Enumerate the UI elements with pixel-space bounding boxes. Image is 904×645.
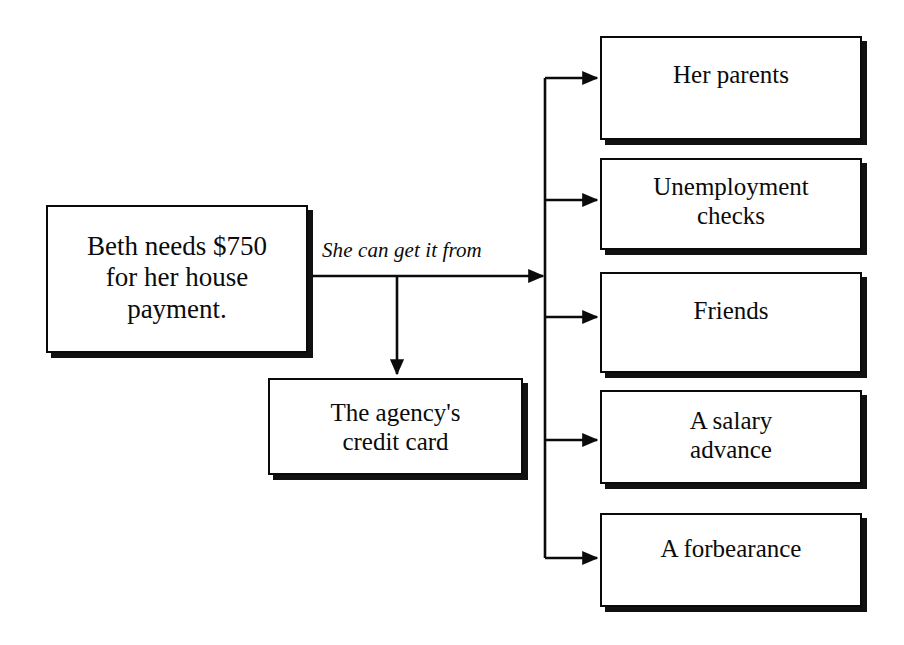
node-option-friends-label: Friends bbox=[694, 296, 769, 325]
node-option-forbearance-label: A forbearance bbox=[661, 534, 802, 563]
edge-label-she-can-get-it-from: She can get it from bbox=[322, 238, 482, 263]
diagram-canvas: Beth needs $750 for her house payment. S… bbox=[0, 0, 904, 645]
node-option-forbearance[interactable]: A forbearance bbox=[600, 513, 862, 607]
node-option-unemployment-checks-label: Unemployment checks bbox=[653, 172, 809, 230]
node-option-her-parents-label: Her parents bbox=[673, 60, 789, 89]
node-option-friends[interactable]: Friends bbox=[600, 272, 862, 373]
node-option-salary-advance[interactable]: A salary advance bbox=[600, 390, 862, 484]
node-option-unemployment-checks[interactable]: Unemployment checks bbox=[600, 158, 862, 250]
node-option-salary-advance-label: A salary advance bbox=[690, 406, 773, 464]
node-credit-card[interactable]: The agency's credit card bbox=[268, 378, 523, 475]
node-option-her-parents[interactable]: Her parents bbox=[600, 36, 862, 140]
node-source-statement[interactable]: Beth needs $750 for her house payment. bbox=[46, 205, 308, 353]
node-credit-card-label: The agency's credit card bbox=[330, 398, 460, 456]
node-source-statement-label: Beth needs $750 for her house payment. bbox=[87, 231, 267, 327]
